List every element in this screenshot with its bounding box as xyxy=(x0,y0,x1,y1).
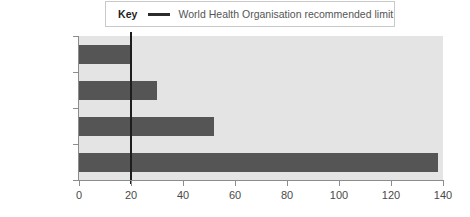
x-tick-label: 20 xyxy=(111,189,151,201)
legend-key-label: Key xyxy=(118,8,138,20)
x-tick-label: 60 xyxy=(215,189,255,201)
bar-mexico-city xyxy=(79,117,214,136)
y-tick xyxy=(73,72,78,73)
x-tick xyxy=(287,181,288,186)
bar-row xyxy=(79,36,443,72)
x-tick-label: 100 xyxy=(319,189,359,201)
x-tick-label: 80 xyxy=(267,189,307,201)
x-axis-line xyxy=(79,180,444,181)
who-limit-line-swatch xyxy=(148,13,170,16)
legend-entry-label: World Health Organisation recommended li… xyxy=(179,8,394,20)
x-tick-label: 0 xyxy=(59,189,99,201)
x-tick xyxy=(235,181,236,186)
x-tick xyxy=(183,181,184,186)
bar-mumbai xyxy=(79,153,438,172)
x-tick xyxy=(131,181,132,186)
x-tick-label: 140 xyxy=(423,189,463,201)
x-tick xyxy=(339,181,340,186)
bar-new-york-city xyxy=(79,45,131,64)
y-tick xyxy=(73,36,78,37)
x-tick xyxy=(79,181,80,186)
x-tick xyxy=(443,181,444,186)
y-tick xyxy=(73,144,78,145)
plot-area xyxy=(79,36,443,180)
x-tick-label: 120 xyxy=(371,189,411,201)
chart-legend: Key World Health Organisation recommende… xyxy=(105,1,395,27)
y-tick xyxy=(73,108,78,109)
bar-row xyxy=(79,144,443,180)
x-tick xyxy=(391,181,392,186)
bar-chart: Key World Health Organisation recommende… xyxy=(0,0,470,217)
bar-london xyxy=(79,81,157,100)
x-tick-label: 40 xyxy=(163,189,203,201)
bar-row xyxy=(79,72,443,108)
y-tick xyxy=(73,180,78,181)
bar-row xyxy=(79,108,443,144)
y-axis-line xyxy=(78,36,79,181)
who-recommended-limit-line xyxy=(130,32,132,184)
